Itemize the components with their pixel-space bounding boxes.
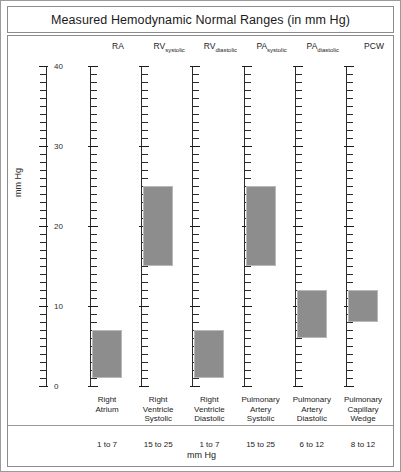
column-minor-tick (296, 234, 302, 235)
column-range-pcw: 8 to 12 (327, 440, 399, 449)
y-axis-label: mm Hg (13, 168, 23, 197)
column-minor-tick (142, 162, 148, 163)
column-minor-tick (142, 138, 148, 139)
column-minor-tick (193, 90, 199, 91)
column-major-tick (88, 146, 98, 147)
column-minor-tick (347, 202, 353, 203)
column-minor-tick (193, 258, 199, 259)
column-minor-tick (142, 290, 148, 291)
column-minor-tick (347, 370, 353, 371)
column-major-tick (139, 146, 149, 147)
column-minor-tick (91, 290, 97, 291)
column-minor-tick (142, 362, 148, 363)
column-minor-tick (142, 274, 148, 275)
column-major-tick (139, 306, 149, 307)
column-minor-tick (347, 162, 353, 163)
column-minor-tick (296, 266, 302, 267)
column-minor-tick (245, 322, 251, 323)
y-axis-minor-tick (40, 298, 47, 299)
range-bar-pcw[interactable] (348, 290, 378, 322)
column-major-tick (190, 66, 200, 67)
column-header-pcw: PCW (334, 41, 401, 51)
y-axis-minor-tick (40, 218, 47, 219)
column-minor-tick (142, 282, 148, 283)
column-major-tick (88, 66, 98, 67)
column-minor-tick (296, 90, 302, 91)
column-major-tick (293, 66, 303, 67)
column-major-tick (88, 386, 98, 387)
column-major-tick (139, 66, 149, 67)
column-minor-tick (193, 154, 199, 155)
column-minor-tick (245, 362, 251, 363)
column-minor-tick (142, 90, 148, 91)
y-axis-major-tick (39, 386, 48, 387)
column-minor-tick (91, 82, 97, 83)
range-bar-padiastolic[interactable] (297, 290, 327, 338)
column-minor-tick (142, 298, 148, 299)
x-axis-label: mm Hg (1, 450, 401, 460)
column-minor-tick (193, 282, 199, 283)
column-minor-tick (91, 154, 97, 155)
column-minor-tick (245, 338, 251, 339)
column-minor-tick (347, 330, 353, 331)
column-minor-tick (296, 138, 302, 139)
chart-column-pcw: PCWPulmonaryCapillaryWedge8 to 12 (346, 62, 401, 390)
column-minor-tick (193, 274, 199, 275)
column-major-tick (88, 306, 98, 307)
range-bar-rvsystolic[interactable] (143, 186, 173, 266)
column-minor-tick (245, 178, 251, 179)
column-minor-tick (296, 362, 302, 363)
column-minor-tick (142, 322, 148, 323)
column-minor-tick (193, 242, 199, 243)
column-minor-tick (245, 162, 251, 163)
column-minor-tick (91, 266, 97, 267)
column-minor-tick (347, 274, 353, 275)
column-minor-tick (91, 186, 97, 187)
column-minor-tick (347, 98, 353, 99)
column-minor-tick (193, 202, 199, 203)
range-bar-ra[interactable] (92, 330, 122, 378)
column-minor-tick (347, 186, 353, 187)
column-minor-tick (296, 218, 302, 219)
y-axis-tick-label: 40 (54, 62, 63, 71)
column-minor-tick (142, 370, 148, 371)
column-minor-tick (347, 194, 353, 195)
column-minor-tick (296, 98, 302, 99)
column-minor-tick (347, 234, 353, 235)
y-axis-minor-tick (40, 370, 47, 371)
range-bar-pasystolic[interactable] (246, 186, 276, 266)
column-minor-tick (296, 130, 302, 131)
column-minor-tick (296, 122, 302, 123)
column-minor-tick (142, 154, 148, 155)
column-minor-tick (193, 170, 199, 171)
column-minor-tick (142, 378, 148, 379)
y-axis-minor-tick (40, 274, 47, 275)
column-minor-tick (91, 98, 97, 99)
column-minor-tick (193, 218, 199, 219)
column-minor-tick (91, 322, 97, 323)
column-minor-tick (91, 194, 97, 195)
column-minor-tick (296, 282, 302, 283)
y-axis-minor-tick (40, 202, 47, 203)
range-bar-rvdiastolic[interactable] (194, 330, 224, 378)
column-minor-tick (193, 250, 199, 251)
column-minor-tick (142, 130, 148, 131)
y-axis-minor-tick (40, 138, 47, 139)
column-minor-tick (193, 122, 199, 123)
y-axis-minor-tick (40, 354, 47, 355)
column-minor-tick (296, 258, 302, 259)
column-minor-tick (245, 330, 251, 331)
y-axis-minor-tick (40, 322, 47, 323)
column-minor-tick (245, 314, 251, 315)
column-minor-tick (296, 154, 302, 155)
column-minor-tick (347, 106, 353, 107)
column-minor-tick (347, 138, 353, 139)
column-major-tick (344, 226, 354, 227)
column-minor-tick (245, 370, 251, 371)
y-axis-minor-tick (40, 74, 47, 75)
column-minor-tick (347, 266, 353, 267)
column-minor-tick (193, 298, 199, 299)
y-axis-minor-tick (40, 258, 47, 259)
column-minor-tick (142, 266, 148, 267)
column-minor-tick (245, 138, 251, 139)
